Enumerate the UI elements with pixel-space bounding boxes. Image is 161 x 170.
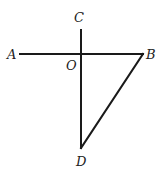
segment-bd: [81, 54, 143, 148]
label-c: C: [74, 10, 84, 25]
label-d: D: [75, 154, 87, 169]
label-a: A: [6, 47, 16, 62]
label-o: O: [66, 58, 77, 73]
geometry-diagram: A B C O D: [0, 0, 161, 170]
label-b: B: [145, 47, 156, 62]
